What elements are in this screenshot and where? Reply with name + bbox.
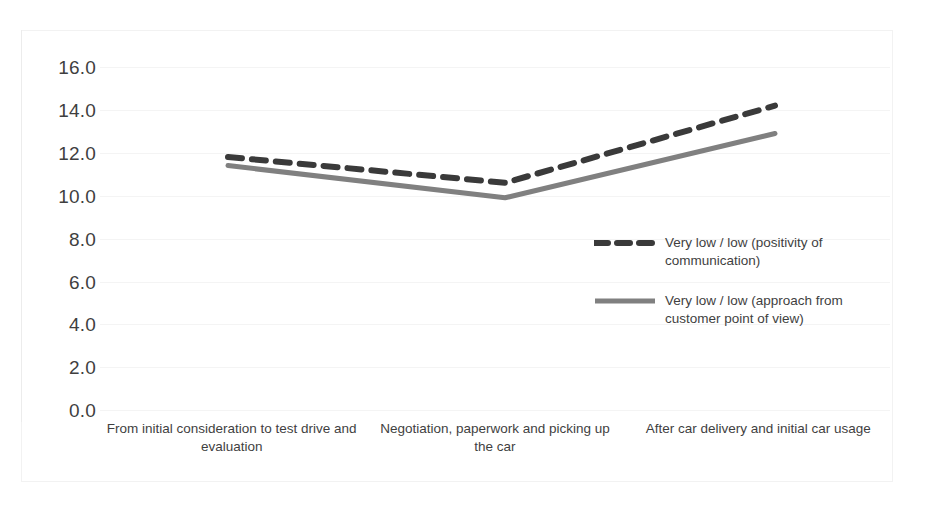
solid-line-swatch	[594, 294, 656, 312]
x-tick-label: From initial consideration to test drive…	[100, 420, 363, 478]
series-line-positivity-of-communication	[228, 106, 775, 183]
x-axis-tick-labels: From initial consideration to test drive…	[100, 420, 890, 478]
x-tick-label: Negotiation, paperwork and picking up th…	[363, 420, 626, 478]
legend-item-label: Very low / low (approach from customer p…	[665, 292, 880, 328]
legend-item[interactable]: Very low / low (approach from customer p…	[594, 292, 894, 328]
legend-item-label: Very low / low (positivity of communicat…	[665, 234, 880, 270]
x-tick-label: After car delivery and initial car usage	[627, 420, 890, 478]
legend-item[interactable]: Very low / low (positivity of communicat…	[594, 234, 894, 270]
chart-legend: Very low / low (positivity of communicat…	[594, 234, 894, 350]
line-chart: 16.0 14.0 12.0 10.0 8.0 6.0 4.0 2.0 0.0 …	[0, 0, 928, 508]
dashed-line-swatch	[594, 236, 656, 254]
